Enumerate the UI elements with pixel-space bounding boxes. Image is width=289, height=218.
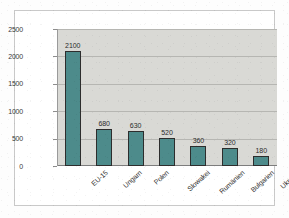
bar[interactable] xyxy=(159,138,175,166)
bar-value-label: 360 xyxy=(193,137,204,144)
y-axis-tick-label: 1000 xyxy=(8,108,23,115)
bar[interactable] xyxy=(96,129,112,166)
bar-group: 520 xyxy=(151,29,182,166)
bar[interactable] xyxy=(65,51,81,166)
y-axis-tick-label: 500 xyxy=(12,135,23,142)
x-axis-tick-label: Polen xyxy=(152,169,170,186)
bar-value-label: 520 xyxy=(161,129,172,136)
bar-group: 180 xyxy=(246,29,277,166)
bar-value-label: 680 xyxy=(98,120,109,127)
bar[interactable] xyxy=(190,146,206,166)
y-axis-tick-label: 0 xyxy=(19,163,23,170)
chart-frame: 05001000150020002500 2100680630520360320… xyxy=(14,10,275,206)
x-axis-category-labels: EU-15UngarnPolenSlowakeiRumänienBulgarie… xyxy=(57,169,277,215)
bar-group: 2100 xyxy=(57,29,88,166)
bar-series: 2100680630520360320180 xyxy=(57,29,277,166)
bar-group: 630 xyxy=(120,29,151,166)
bar[interactable] xyxy=(253,156,269,166)
bar-value-label: 2100 xyxy=(65,42,80,49)
bar-group: 320 xyxy=(214,29,245,166)
scanned-figure-page: 05001000150020002500 2100680630520360320… xyxy=(0,0,289,218)
bar[interactable] xyxy=(128,131,144,166)
bar-value-label: 630 xyxy=(130,122,141,129)
y-axis-tick-label: 2500 xyxy=(8,26,23,33)
bar[interactable] xyxy=(222,148,238,166)
y-axis-tick-mark xyxy=(53,166,57,167)
x-axis-tick-label: Rumänien xyxy=(218,169,246,195)
x-axis-tick-label: Ukraine xyxy=(279,169,289,190)
x-axis-tick-label: Bulgarien xyxy=(249,169,275,193)
x-axis-tick-label: Ungarn xyxy=(122,169,143,189)
x-axis-tick-label: EU-15 xyxy=(90,169,109,187)
y-axis-tick-label: 2000 xyxy=(8,53,23,60)
bar-value-label: 320 xyxy=(224,139,235,146)
bar-group: 680 xyxy=(88,29,119,166)
x-axis-tick-label: Slowakei xyxy=(186,169,211,192)
y-axis-tick-label: 1500 xyxy=(8,80,23,87)
bar-value-label: 180 xyxy=(256,147,267,154)
bar-group: 360 xyxy=(183,29,214,166)
